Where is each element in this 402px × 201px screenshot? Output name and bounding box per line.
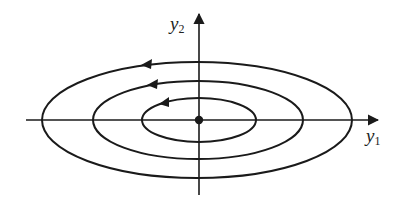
equilibrium-point [195, 116, 203, 124]
inner-direction-arrow-icon [159, 97, 169, 107]
diagram-svg [0, 0, 402, 201]
y2-axis-label: y2 [170, 14, 184, 35]
middle-direction-arrow-icon [147, 79, 158, 89]
y1-axis-label: y1 [366, 126, 380, 147]
phase-portrait-diagram: y2 y1 [0, 0, 402, 201]
outer-direction-arrow-icon [141, 59, 152, 69]
